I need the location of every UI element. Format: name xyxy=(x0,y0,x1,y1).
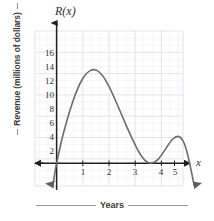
x-axis-title: Years xyxy=(36,198,188,212)
x-axis-title-text: Years xyxy=(100,200,124,210)
chart-canvas xyxy=(0,0,214,221)
revenue-function-chart: 16 14 12 10 8 6 4 2 1 2 3 4 5 R(x) x Rev… xyxy=(0,0,214,221)
x-tick-label-1: 1 xyxy=(77,167,89,177)
x-tick-label-5: 5 xyxy=(169,167,181,177)
y-axis-function-label: R(x) xyxy=(55,4,76,19)
x-axis-title-rule-left xyxy=(36,205,96,206)
y-tick-label-2: 2 xyxy=(38,146,54,156)
x-axis-variable-label: x xyxy=(196,156,201,168)
y-axis-title-text: Revenue (millions of dollars) xyxy=(12,12,22,125)
y-axis-title-rule-right xyxy=(17,3,18,9)
x-tick-label-3: 3 xyxy=(129,167,141,177)
x-tick-label-4: 4 xyxy=(155,167,167,177)
y-tick-label-6: 6 xyxy=(38,118,54,128)
y-tick-label-4: 4 xyxy=(38,132,54,142)
y-axis-title: Revenue (millions of dollars) xyxy=(10,4,24,134)
y-tick-label-10: 10 xyxy=(38,90,54,100)
x-tick-label-2: 2 xyxy=(103,167,115,177)
x-axis-title-rule-right xyxy=(128,205,188,206)
y-tick-label-12: 12 xyxy=(38,76,54,86)
y-tick-label-8: 8 xyxy=(38,104,54,114)
y-tick-label-16: 16 xyxy=(38,48,54,58)
y-tick-label-14: 14 xyxy=(38,62,54,72)
axes xyxy=(35,23,190,190)
y-axis-title-rule-left xyxy=(17,129,18,135)
